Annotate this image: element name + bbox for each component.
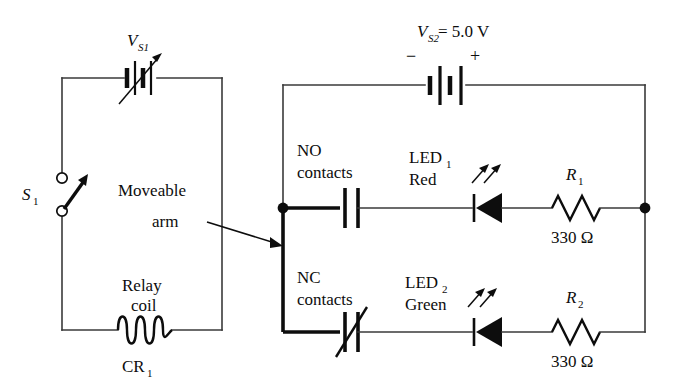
s1-label-sub: 1 bbox=[33, 195, 39, 207]
branch-no-led1: NO contacts LED 1 Red R 1 330 Ω bbox=[278, 141, 651, 247]
vs2-value: = 5.0 V bbox=[438, 22, 490, 41]
relay-coil-caption-line1: Relay bbox=[122, 276, 162, 295]
r1-value: 330 Ω bbox=[551, 228, 593, 247]
led1-emission-arrows bbox=[472, 164, 501, 183]
branch-nc-led2: NC contacts LED 2 Green R 2 330 Ω bbox=[283, 268, 645, 371]
led1-color-label: Red bbox=[409, 170, 437, 189]
relay-coil-symbol bbox=[118, 317, 172, 344]
led1-symbol bbox=[472, 164, 502, 223]
coil-designator-sub: 1 bbox=[147, 367, 153, 379]
moveable-arm-leader-line bbox=[207, 222, 275, 243]
r2-value: 330 Ω bbox=[551, 352, 593, 371]
circuit-diagram: V S1 S 1 Relay coil CR 1 Moveable arm bbox=[0, 0, 683, 385]
led2-label: LED bbox=[405, 273, 438, 292]
r1-label: R bbox=[565, 165, 577, 184]
junction-dot-right-rail bbox=[640, 203, 651, 214]
s1-label: S bbox=[22, 185, 31, 204]
r1-label-sub: 1 bbox=[578, 175, 584, 187]
no-contacts-label-line2: contacts bbox=[297, 163, 353, 182]
nc-contacts-label-line1: NC bbox=[297, 268, 321, 287]
led1-anode-triangle bbox=[476, 193, 502, 223]
moveable-arm-pointer-group: Moveable arm bbox=[118, 181, 283, 248]
coil-designator: CR bbox=[122, 357, 145, 376]
right-circuit-group: V S2 = 5.0 V − + bbox=[278, 22, 651, 371]
led2-anode-triangle bbox=[476, 317, 502, 347]
battery-vs2-symbol bbox=[430, 66, 461, 105]
moveable-arm-caption-line2: arm bbox=[152, 212, 178, 231]
led1-label: LED bbox=[409, 148, 442, 167]
left-circuit-group: V S1 S 1 Relay coil CR 1 bbox=[22, 31, 222, 379]
no-contacts-label-line1: NO bbox=[297, 141, 322, 160]
variable-voltage-source-symbol bbox=[119, 53, 162, 104]
led2-emission-arrows bbox=[468, 288, 497, 307]
led2-symbol bbox=[468, 288, 502, 347]
vs1-label-sub: S1 bbox=[138, 41, 149, 53]
battery-minus-terminal-label: − bbox=[406, 46, 416, 66]
circuit-schematic-canvas: V S1 S 1 Relay coil CR 1 Moveable arm bbox=[0, 0, 683, 385]
led2-label-sub: 2 bbox=[442, 283, 448, 295]
led1-label-sub: 1 bbox=[446, 158, 452, 170]
battery-plus-terminal-label: + bbox=[470, 46, 480, 66]
switch-s1-symbol bbox=[57, 173, 88, 216]
moveable-arm-arrowhead bbox=[270, 237, 283, 248]
led2-color-label: Green bbox=[405, 295, 447, 314]
r2-label-sub: 2 bbox=[578, 298, 584, 310]
nc-contacts-label-line2: contacts bbox=[297, 290, 353, 309]
switch-blade bbox=[64, 181, 84, 209]
moveable-arm-caption-line1: Moveable bbox=[118, 181, 186, 200]
relay-coil-caption-line2: coil bbox=[131, 296, 157, 315]
switch-terminal-top bbox=[57, 173, 67, 183]
resistor-r1-symbol bbox=[552, 196, 600, 220]
r2-label: R bbox=[565, 288, 577, 307]
resistor-r2-symbol bbox=[552, 320, 600, 344]
